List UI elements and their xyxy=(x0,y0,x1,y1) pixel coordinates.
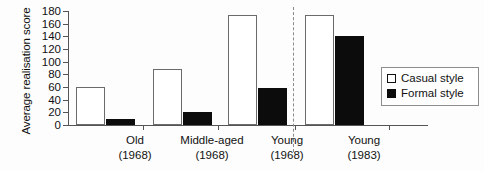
x-category-line1: Young xyxy=(271,134,303,146)
plot-area: 020406080100120140160180 Old(1968)Middle… xyxy=(68,11,371,125)
y-tick-mark xyxy=(63,100,68,101)
x-axis-separator-3 xyxy=(295,125,296,130)
y-tick-mark xyxy=(63,49,68,50)
y-tick-label: 180 xyxy=(42,3,61,19)
y-axis-line xyxy=(68,11,69,126)
x-axis-line xyxy=(68,125,428,126)
bar-casual-2 xyxy=(228,15,257,125)
y-tick-mark xyxy=(63,112,68,113)
y-tick-mark xyxy=(63,125,68,126)
filled-square-icon xyxy=(387,89,396,98)
bar-formal-2 xyxy=(258,88,287,125)
x-category-line1: Young xyxy=(348,134,380,146)
y-tick-mark xyxy=(63,24,68,25)
period-divider-dashed-line xyxy=(293,7,294,152)
bar-casual-0 xyxy=(76,87,105,125)
x-category-label-3: Young(1983) xyxy=(306,133,422,162)
x-axis-separator-2 xyxy=(218,125,219,130)
x-axis-separator-end xyxy=(389,125,390,130)
y-tick-mark xyxy=(63,62,68,63)
bar-chart: Average realisation score 02040608010012… xyxy=(0,0,484,171)
y-axis-title-label: Average realisation score xyxy=(20,7,32,134)
bar-formal-1 xyxy=(183,112,212,125)
legend-label-formal: Formal style xyxy=(401,87,464,100)
open-square-icon xyxy=(387,74,396,83)
bar-casual-1 xyxy=(153,69,182,125)
y-tick-mark xyxy=(63,87,68,88)
y-tick-mark xyxy=(63,36,68,37)
x-category-line2: (1983) xyxy=(306,148,422,163)
x-axis-separator-1 xyxy=(143,125,144,130)
bar-casual-3 xyxy=(305,15,334,125)
y-tick-mark xyxy=(63,11,68,12)
legend-label-casual: Casual style xyxy=(401,72,464,85)
y-tick-mark xyxy=(63,74,68,75)
legend-item-formal: Formal style xyxy=(387,86,473,101)
y-axis-title: Average realisation score xyxy=(16,6,36,136)
bar-formal-3 xyxy=(335,36,364,125)
legend: Casual style Formal style xyxy=(381,67,479,106)
legend-item-casual: Casual style xyxy=(387,71,473,86)
x-category-line1: Old xyxy=(126,134,144,146)
bar-formal-0 xyxy=(106,119,135,125)
